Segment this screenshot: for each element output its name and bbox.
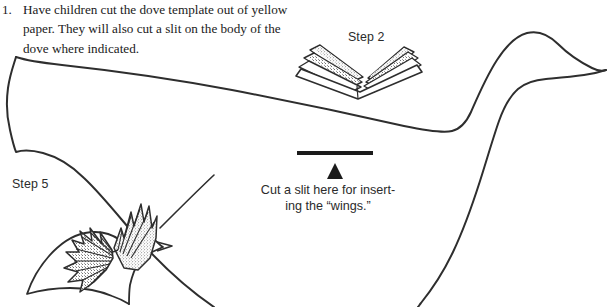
step-2-label: Step 2	[348, 30, 384, 44]
slit-arrow-icon	[327, 163, 343, 179]
step5-background-line	[160, 175, 214, 228]
slit-caption-line-1: Cut a slit here for insert-	[240, 182, 416, 198]
slit-caption: Cut a slit here for insert- ing the “win…	[240, 182, 416, 214]
slit-caption-line-2: ing the “wings.”	[240, 198, 416, 214]
instruction-text: Have children cut the dove template out …	[23, 0, 302, 58]
worksheet-page: 1. Have children cut the dove template o…	[0, 0, 609, 307]
slit-mark-group	[297, 153, 373, 179]
instruction-block: 1. Have children cut the dove template o…	[2, 0, 302, 58]
dove-beak-and-breast-right	[418, 70, 606, 307]
instruction-row: 1. Have children cut the dove template o…	[2, 0, 302, 58]
instruction-number: 1.	[2, 0, 23, 19]
step-5-label: Step 5	[12, 177, 48, 191]
accordion-fold-figure	[296, 45, 422, 99]
